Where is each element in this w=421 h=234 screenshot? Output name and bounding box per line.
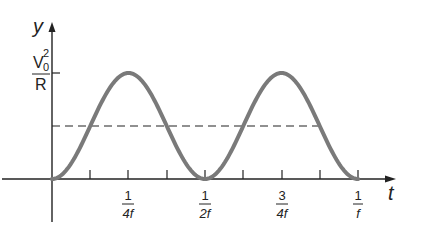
- x-tick-label-full: 1 f: [353, 188, 363, 221]
- x-tick-label-quarter: 1 4f: [122, 188, 135, 221]
- svg-text:2f: 2f: [199, 206, 212, 221]
- x-tick-label-three-quarter: 3 4f: [276, 188, 289, 221]
- y-axis-arrow-icon: [49, 22, 56, 32]
- x-axis-label: t: [388, 182, 395, 204]
- svg-text:1: 1: [201, 188, 208, 203]
- svg-text:1: 1: [124, 188, 131, 203]
- power-vs-time-diagram: y t V 0 2 R 1 4f 1 2f 3 4f 1 f: [0, 0, 421, 234]
- svg-text:4f: 4f: [277, 206, 289, 221]
- svg-text:2: 2: [43, 47, 49, 59]
- svg-text:4f: 4f: [123, 206, 135, 221]
- x-tick-label-half: 1 2f: [199, 188, 212, 221]
- svg-text:R: R: [35, 76, 47, 93]
- svg-text:0: 0: [43, 61, 49, 73]
- x-ticks: [90, 170, 358, 179]
- svg-text:f: f: [356, 206, 361, 221]
- y-axis-label: y: [31, 15, 44, 37]
- svg-text:3: 3: [278, 188, 285, 203]
- svg-text:1: 1: [354, 188, 361, 203]
- y-tick-label: V 0 2 R: [32, 47, 50, 93]
